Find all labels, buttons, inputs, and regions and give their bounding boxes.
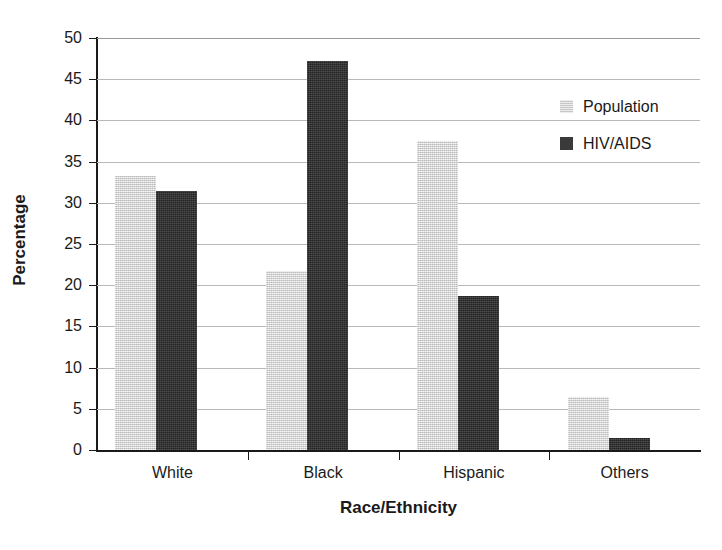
y-axis-tick-label: 15: [30, 317, 82, 335]
bar-hispanic-hiv-aids: [458, 296, 499, 450]
y-axis-tick-label: 5: [30, 400, 82, 418]
y-axis-tick-label: 50: [30, 29, 82, 47]
x-axis-title: Race/Ethnicity: [97, 498, 700, 518]
gridline: [97, 38, 700, 39]
gridline: [97, 79, 700, 80]
x-axis-category-label: Others: [549, 464, 700, 482]
bar-others-hiv-aids: [609, 438, 650, 450]
bar-hispanic-population: [417, 141, 458, 450]
x-axis-separator-tick: [399, 451, 400, 460]
y-axis-tick-label: 20: [30, 276, 82, 294]
y-axis-tick-label: 0: [30, 441, 82, 459]
bar-white-population: [115, 176, 156, 450]
y-axis-tick-label: 30: [30, 194, 82, 212]
bar-chart: Percentage 50454035302520151050 WhiteBla…: [0, 0, 722, 550]
legend-item-hiv-aids: HIV/AIDS: [560, 125, 710, 162]
legend-swatch-icon: [560, 137, 573, 150]
y-axis-ticks: 50454035302520151050: [0, 0, 97, 550]
bar-black-population: [266, 271, 307, 450]
bar-others-population: [568, 397, 609, 450]
legend-item-population: Population: [560, 88, 710, 125]
y-axis-tick-label: 45: [30, 70, 82, 88]
bar-white-hiv-aids: [156, 191, 197, 450]
y-axis-tick-label: 10: [30, 359, 82, 377]
y-axis-tick-label: 35: [30, 153, 82, 171]
x-axis-separator-tick: [248, 451, 249, 460]
legend-swatch-icon: [560, 100, 573, 113]
bar-black-hiv-aids: [307, 61, 348, 450]
y-axis-tick-label: 40: [30, 111, 82, 129]
y-axis-tick-label: 25: [30, 235, 82, 253]
x-axis-category-label: Black: [248, 464, 399, 482]
chart-legend: PopulationHIV/AIDS: [560, 88, 710, 162]
legend-label: HIV/AIDS: [583, 135, 651, 153]
x-axis-category-label: Hispanic: [399, 464, 550, 482]
legend-label: Population: [583, 98, 659, 116]
x-axis-separator-tick: [549, 451, 550, 460]
x-axis-category-label: White: [97, 464, 248, 482]
